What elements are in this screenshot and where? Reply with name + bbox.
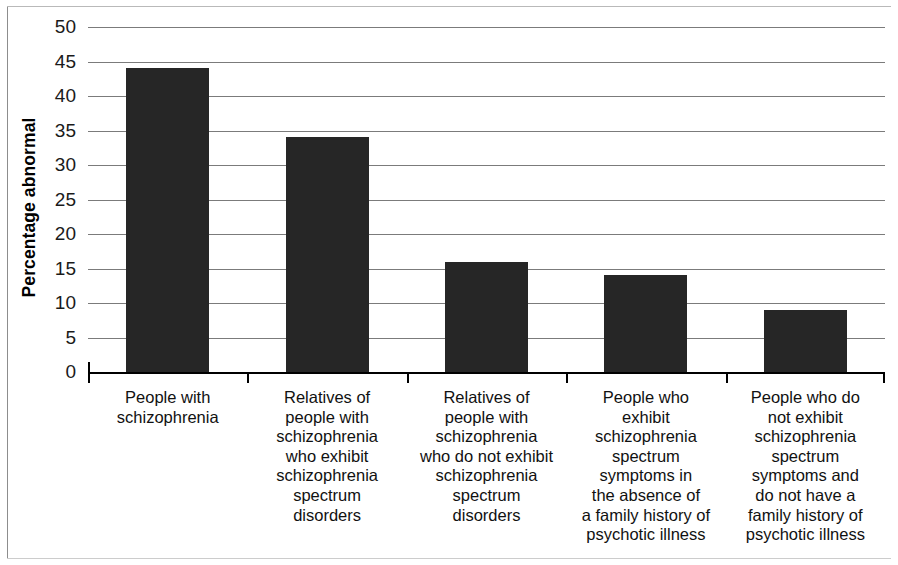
gridline <box>88 62 885 63</box>
plot-area: 05101520253035404550 <box>88 27 885 372</box>
x-axis-category-label-line: psychotic illness <box>730 525 881 545</box>
x-axis-category-label-line: exhibit <box>570 408 721 428</box>
x-axis-category-label-line: the absence of <box>570 486 721 506</box>
y-axis-origin-tick <box>88 362 90 372</box>
y-axis-tick-label: 15 <box>16 258 76 280</box>
x-axis-category-label: People who donot exhibitschizophreniaspe… <box>726 388 885 558</box>
bar <box>604 275 687 372</box>
x-axis-category-tick <box>407 372 409 383</box>
x-axis-category-label-line: who do not exhibit <box>411 447 562 467</box>
figure-border-top <box>7 6 891 7</box>
x-axis-category-label-line: schizophrenia <box>730 427 881 447</box>
y-axis-tick-label: 45 <box>16 51 76 73</box>
figure-border-bottom <box>7 558 891 559</box>
x-axis-category-label-line: not exhibit <box>730 408 881 428</box>
x-axis-category-label-line: People who <box>570 388 721 408</box>
x-axis-category-label-line: People who do <box>730 388 881 408</box>
y-axis-tick-label: 25 <box>16 189 76 211</box>
x-axis-category-label-line: schizophrenia <box>251 427 402 447</box>
y-axis-tick-label: 35 <box>16 120 76 142</box>
y-axis-tick-label: 20 <box>16 223 76 245</box>
x-axis-category-label-line: schizophrenia <box>92 408 243 428</box>
y-axis-tick-label: 40 <box>16 85 76 107</box>
x-axis-category-label: People whoexhibitschizophreniaspectrumsy… <box>566 388 725 558</box>
x-axis-category-label-line: a family history of <box>570 506 721 526</box>
x-axis-category-label-line: schizophrenia <box>570 427 721 447</box>
figure-border-left <box>7 6 8 559</box>
x-axis-category-tick <box>566 372 568 383</box>
bar <box>126 68 209 372</box>
x-axis-category-label-line: disorders <box>251 506 402 526</box>
x-axis-category-tick <box>247 372 249 383</box>
x-axis-category-label-line: do not have a <box>730 486 881 506</box>
x-axis-category-label-line: People with <box>92 388 243 408</box>
x-axis-category-label: Relatives ofpeople withschizophreniawho … <box>247 388 406 558</box>
x-axis-category-label-line: schizophrenia <box>411 466 562 486</box>
x-axis-category-label-line: psychotic illness <box>570 525 721 545</box>
bar <box>445 262 528 372</box>
x-axis-category-label: Relatives ofpeople withschizophreniawho … <box>407 388 566 558</box>
x-axis-category-label-line: symptoms and <box>730 466 881 486</box>
x-axis-category-label: People withschizophrenia <box>88 388 247 558</box>
y-axis-tick-label: 50 <box>16 16 76 38</box>
bar <box>764 310 847 372</box>
x-axis-category-label-line: people with <box>251 408 402 428</box>
x-axis-category-label-line: Relatives of <box>251 388 402 408</box>
bar-chart-figure: Percentage abnormal 05101520253035404550… <box>0 0 898 565</box>
bar <box>286 137 369 372</box>
x-axis-category-label-line: schizophrenia <box>411 427 562 447</box>
x-axis-category-label-line: spectrum <box>730 447 881 467</box>
x-axis-category-label-line: symptoms in <box>570 466 721 486</box>
x-axis-labels: People withschizophreniaRelatives ofpeop… <box>88 388 885 558</box>
x-axis-category-label-line: family history of <box>730 506 881 526</box>
x-axis-category-tick <box>883 372 885 383</box>
x-axis-category-label-line: Relatives of <box>411 388 562 408</box>
y-axis-tick-label: 30 <box>16 154 76 176</box>
x-axis-category-tick <box>726 372 728 383</box>
y-axis-tick-label: 5 <box>16 327 76 349</box>
y-axis-tick-label: 10 <box>16 292 76 314</box>
x-axis-category-label-line: people with <box>411 408 562 428</box>
gridline <box>88 27 885 28</box>
x-axis-category-label-line: schizophrenia <box>251 466 402 486</box>
y-axis-tick-label: 0 <box>16 361 76 383</box>
x-axis-category-label-line: spectrum <box>570 447 721 467</box>
x-axis-category-label-line: disorders <box>411 506 562 526</box>
x-axis-category-label-line: who exhibit <box>251 447 402 467</box>
x-axis-category-label-line: spectrum <box>251 486 402 506</box>
x-axis-category-label-line: spectrum <box>411 486 562 506</box>
x-axis-baseline <box>88 372 885 374</box>
x-axis-category-tick <box>88 372 90 383</box>
